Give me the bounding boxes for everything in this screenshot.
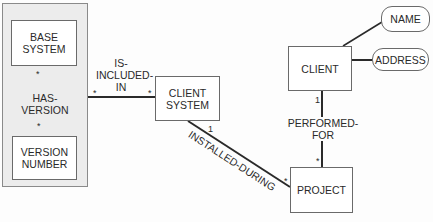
- relationship-label-has-version: HAS-VERSION: [11, 92, 79, 116]
- attribute-address[interactable]: ADDRESS: [372, 48, 429, 71]
- multiplicity-performed-for-to: *: [316, 156, 320, 166]
- multiplicity-installed-during-to: *: [284, 176, 288, 186]
- relationship-label-is-included-in: IS- INCLUDED- IN: [96, 57, 146, 93]
- entity-client-system[interactable]: CLIENT SYSTEM: [155, 76, 220, 121]
- multiplicity-has-version-from: *: [36, 69, 40, 79]
- attribute-name[interactable]: NAME: [381, 6, 430, 32]
- entity-project[interactable]: PROJECT: [290, 167, 353, 213]
- relationship-label-performed-for: PERFORMED-FOR: [278, 117, 368, 141]
- installed-during-line: [188, 121, 290, 187]
- multiplicity-has-version-to: *: [37, 121, 41, 131]
- client-name-line: [343, 22, 382, 46]
- multiplicity-is-included-in-to: *: [148, 88, 152, 98]
- multiplicity-is-included-in-from: *: [93, 88, 97, 98]
- multiplicity-installed-during-from: 1: [208, 124, 213, 134]
- entity-base-system[interactable]: BASE SYSTEM: [11, 20, 77, 66]
- entity-version-number[interactable]: VERSION NUMBER: [12, 136, 77, 180]
- diagram-canvas: BASE SYSTEM VERSION NUMBER CLIENT SYSTEM…: [0, 0, 433, 222]
- entity-client[interactable]: CLIENT: [288, 46, 352, 91]
- multiplicity-performed-for-from: 1: [315, 95, 320, 105]
